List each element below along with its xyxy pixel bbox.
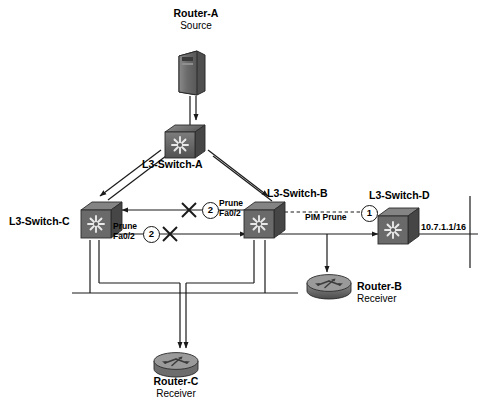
annotation-prune-upper-line2: Fa0/2 bbox=[219, 209, 243, 219]
node-l3-switch-b[interactable] bbox=[242, 200, 286, 246]
switch-icon bbox=[376, 206, 420, 248]
annotation-prune-lower-line2: Fa0/2 bbox=[113, 232, 137, 242]
label-l3-switch-c: L3-Switch-C bbox=[9, 216, 70, 228]
node-router-b[interactable] bbox=[305, 272, 353, 306]
label-router-c-name: Router-C bbox=[130, 376, 222, 388]
node-l3-switch-d[interactable] bbox=[376, 206, 420, 252]
annotation-prune-upper: Prune Fa0/2 bbox=[219, 199, 243, 218]
network-diagram-canvas: Router-A Source L3-Switch-A L3-Switch-C … bbox=[0, 0, 488, 403]
link-switcha-switchb bbox=[208, 150, 272, 201]
step-marker-1: 1 bbox=[361, 205, 378, 222]
label-router-b-role: Receiver bbox=[357, 293, 402, 304]
annotation-prune-lower: Prune Fa0/2 bbox=[113, 222, 137, 241]
label-router-a-role: Source bbox=[150, 20, 242, 31]
label-router-c: Router-C Receiver bbox=[130, 376, 222, 399]
label-router-b: Router-B Receiver bbox=[357, 281, 402, 304]
server-icon bbox=[175, 48, 207, 98]
label-router-c-role: Receiver bbox=[130, 388, 222, 399]
label-l3-switch-a: L3-Switch-A bbox=[142, 159, 203, 171]
link-switchb-bus bbox=[186, 240, 265, 293]
link-switchc-bus bbox=[90, 240, 180, 293]
step-marker-2-upper: 2 bbox=[202, 202, 219, 219]
label-router-b-name: Router-B bbox=[357, 281, 402, 293]
node-router-a[interactable] bbox=[175, 48, 207, 102]
label-l3-switch-b: L3-Switch-B bbox=[267, 188, 328, 200]
label-router-a-name: Router-A bbox=[150, 8, 242, 20]
label-router-a: Router-A Source bbox=[150, 8, 242, 31]
link-blocked-x-markers bbox=[163, 203, 196, 241]
label-subnet-10-7-1-1: 10.7.1.1/16 bbox=[421, 222, 466, 232]
switch-icon bbox=[163, 124, 207, 162]
router-icon bbox=[305, 272, 353, 302]
step-marker-2-lower: 2 bbox=[143, 226, 160, 243]
switch-icon bbox=[242, 200, 286, 242]
annotation-pim-prune: PIM Prune bbox=[305, 213, 347, 223]
label-l3-switch-d: L3-Switch-D bbox=[369, 190, 430, 202]
